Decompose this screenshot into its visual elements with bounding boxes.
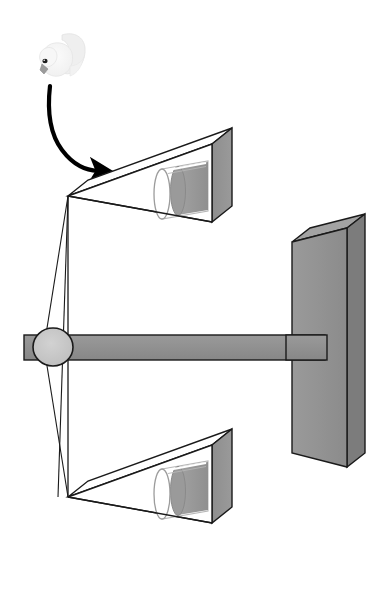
upper-speaker-horn	[68, 128, 232, 222]
figure-canvas: Two-choice acoustic playback apparatus w…	[0, 0, 379, 610]
pivot-hub	[33, 328, 73, 366]
post-side-face	[347, 214, 365, 467]
apparatus-diagram	[0, 0, 379, 610]
lower-speaker-horn	[68, 429, 232, 523]
upper-horn-mouth-side	[212, 128, 232, 222]
lower-horn-mouth-side	[212, 429, 232, 523]
pivot-hub-circle	[33, 328, 73, 366]
strut-pivot-to-lower	[44, 347, 68, 497]
approach-arrow-path	[49, 86, 98, 171]
dove-eye	[42, 59, 47, 63]
perch-bar-joint	[286, 335, 327, 360]
lower-cylinder-front-rim	[154, 469, 170, 519]
upper-cylinder-inner-rim	[171, 167, 186, 216]
strut-upper-to-pivot	[44, 196, 68, 347]
approach-arrow-icon	[49, 86, 98, 171]
upper-horn-cylinder	[154, 161, 208, 219]
dove-icon	[40, 34, 85, 76]
lower-cylinder-inner-rim	[171, 467, 186, 516]
lower-horn-cylinder	[154, 461, 208, 519]
dove-eye-highlight	[43, 60, 45, 61]
